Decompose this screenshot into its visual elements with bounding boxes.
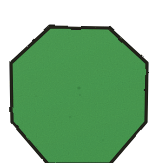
- octagon-grain-overlay: [0, 0, 158, 163]
- speckle: [79, 94, 81, 96]
- octagon-fill-group: [0, 0, 158, 163]
- speckle: [102, 139, 104, 141]
- speckle: [69, 116, 71, 118]
- speckle: [77, 86, 80, 89]
- speckle: [35, 95, 37, 97]
- octagon-figure: [0, 0, 158, 163]
- image-canvas: octagon: [0, 0, 158, 163]
